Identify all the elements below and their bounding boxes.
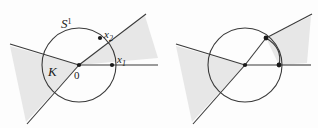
left-origin-point (77, 63, 81, 67)
right-lower-left-shaded-cone (176, 46, 245, 122)
left-lower-left-shaded-cone-K (10, 46, 79, 122)
left-panel: S1 K 0 x1 x2 (10, 14, 158, 124)
label-point-x2: x2 (103, 28, 113, 43)
geometry-diagram: S1 K 0 x1 x2 (0, 0, 318, 128)
right-point-x1 (277, 63, 282, 68)
right-origin-point (243, 63, 247, 67)
left-point-x2 (98, 36, 102, 40)
right-panel (176, 14, 312, 124)
left-point-x1 (110, 63, 114, 67)
right-point-x2 (264, 36, 269, 41)
figure-container: S1 K 0 x1 x2 (0, 0, 318, 128)
label-origin: 0 (74, 69, 80, 81)
right-segment-origin-to-x2 (245, 38, 266, 65)
label-cone-K: K (47, 64, 58, 79)
